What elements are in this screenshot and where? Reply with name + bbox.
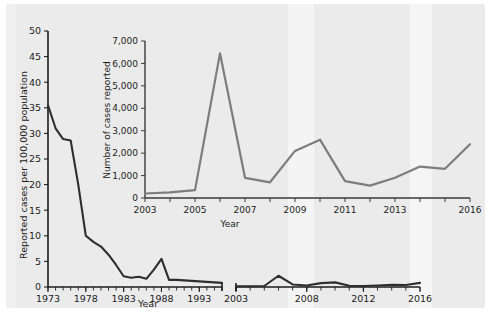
- inset-x-tick-label: 2005: [184, 205, 207, 215]
- inset-y-tick-label: 4,000: [112, 103, 138, 113]
- inset-x-axis: 2003200520072009201120132016: [134, 198, 482, 215]
- inset-data-series: [145, 53, 470, 193]
- inset-y-tick-label: 3,000: [112, 126, 138, 136]
- inset-y-tick-label: 2,000: [112, 148, 138, 158]
- inset-y-tick-label: 6,000: [112, 59, 138, 69]
- inset-y-tick-label: 0: [132, 193, 138, 203]
- figure-container: 05101520253035404550 1973197819831988199…: [0, 0, 497, 333]
- inset-x-tick-label: 2003: [134, 205, 157, 215]
- inset-x-tick-label: 2013: [384, 205, 407, 215]
- inset-x-tick-label: 2011: [334, 205, 357, 215]
- inset-y-axis-label: Number of cases reported: [102, 61, 112, 179]
- inset-y-axis: 01,0002,0003,0004,0005,0006,0007,000: [112, 36, 145, 203]
- inset-series-line: [145, 53, 470, 193]
- inset-y-tick-label: 7,000: [112, 36, 138, 46]
- inset-x-axis-label: Year: [219, 219, 239, 229]
- inset-x-tick-label: 2016: [459, 205, 482, 215]
- inset-line-chart: 01,0002,0003,0004,0005,0006,0007,000 200…: [0, 0, 497, 333]
- inset-x-tick-label: 2007: [234, 205, 257, 215]
- inset-y-tick-label: 5,000: [112, 81, 138, 91]
- inset-y-tick-label: 1,000: [112, 171, 138, 181]
- inset-x-tick-label: 2009: [284, 205, 307, 215]
